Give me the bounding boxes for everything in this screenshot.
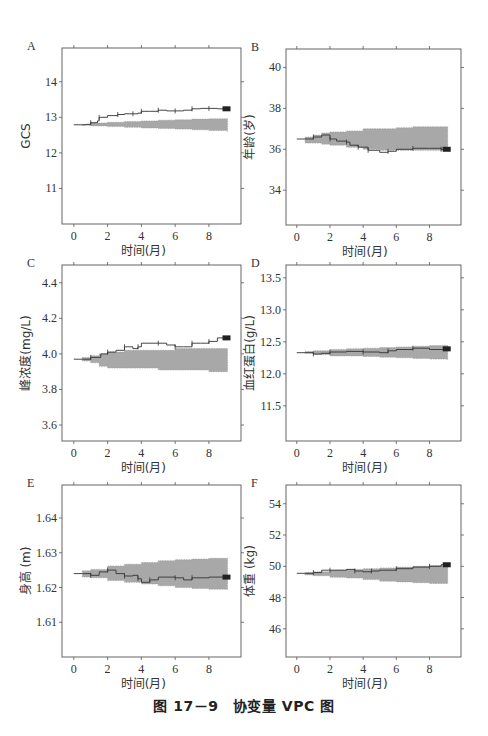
x-tick-label: 4 (360, 230, 366, 244)
y-axis-label: 峰浓度(mg/L) (18, 315, 33, 390)
x-tick-label: 0 (71, 446, 77, 460)
panel-letter: F (251, 476, 258, 490)
y-tick-label: 34 (269, 183, 281, 197)
x-tick-label: 0 (294, 662, 300, 676)
end-marker (222, 335, 230, 340)
x-tick-label: 4 (360, 662, 366, 676)
x-axis-label: 时间(月) (121, 461, 166, 475)
prediction-interval-band (82, 558, 227, 590)
y-tick-label: 48 (269, 591, 281, 605)
y-axis-label: 血红蛋白(g/L) (242, 315, 257, 391)
x-tick-label: 8 (426, 662, 432, 676)
y-tick-label: 46 (269, 622, 281, 636)
x-tick-label: 0 (294, 446, 300, 460)
chart-panel-a: 0246811121314时间(月)GCSA (19, 39, 244, 258)
end-marker (443, 562, 451, 567)
y-tick-label: 1.62 (36, 581, 57, 595)
y-tick-label: 13.5 (260, 271, 281, 285)
x-axis-label: 时间(月) (121, 244, 166, 258)
x-tick-label: 6 (393, 446, 399, 460)
x-tick-label: 2 (105, 662, 111, 676)
x-tick-label: 6 (393, 662, 399, 676)
x-tick-label: 8 (426, 446, 432, 460)
y-tick-label: 1.64 (36, 511, 57, 525)
y-tick-label: 1.61 (36, 615, 57, 629)
x-tick-label: 0 (294, 230, 300, 244)
plot-frame (62, 48, 241, 224)
y-tick-label: 38 (269, 101, 281, 115)
x-tick-label: 2 (327, 662, 333, 676)
vpc-figure: 0246811121314时间(月)GCSA0246834363840时间(月)… (0, 0, 488, 736)
figure-caption: 图 17－9 协变量 VPC 图 (0, 695, 488, 715)
x-tick-label: 6 (393, 230, 399, 244)
y-tick-label: 13.0 (260, 303, 281, 317)
y-tick-label: 36 (269, 142, 281, 156)
y-axis-label: 体重 (kg) (243, 545, 257, 597)
y-tick-label: 1.63 (36, 546, 57, 560)
y-tick-label: 13 (45, 110, 57, 124)
x-axis-label: 时间(月) (342, 677, 387, 691)
x-tick-label: 2 (327, 230, 333, 244)
chart-panel-e: 024681.611.621.631.64时间(月)身高 (m)E (18, 476, 244, 691)
panel-letter: D (251, 256, 260, 270)
x-tick-label: 6 (172, 662, 178, 676)
y-tick-label: 4.4 (42, 276, 57, 290)
y-tick-label: 12.0 (260, 367, 281, 381)
y-tick-label: 3.8 (42, 382, 57, 396)
x-tick-label: 8 (206, 446, 212, 460)
x-tick-label: 4 (138, 446, 144, 460)
y-tick-label: 52 (269, 528, 281, 542)
x-tick-label: 8 (426, 230, 432, 244)
chart-panel-c: 024683.63.84.04.24.4时间(月)峰浓度(mg/L)C (18, 256, 244, 475)
y-axis-label: GCS (19, 123, 33, 148)
x-axis-label: 时间(月) (342, 245, 387, 259)
panel-letter: E (27, 476, 34, 490)
chart-panel-d: 0246811.512.012.513.013.5时间(月)血红蛋白(g/L)D (242, 256, 464, 475)
y-tick-label: 11 (45, 181, 57, 195)
y-tick-label: 3.6 (42, 418, 57, 432)
end-marker (443, 147, 451, 152)
y-tick-label: 14 (45, 75, 57, 89)
x-axis-label: 时间(月) (121, 677, 166, 691)
x-tick-label: 2 (105, 446, 111, 460)
y-axis-label: 身高 (m) (18, 547, 33, 596)
prediction-interval-band (305, 127, 448, 151)
x-tick-label: 4 (138, 662, 144, 676)
x-tick-label: 8 (206, 662, 212, 676)
x-tick-label: 6 (172, 446, 178, 460)
x-tick-label: 2 (327, 446, 333, 460)
y-tick-label: 50 (269, 559, 281, 573)
x-tick-label: 4 (138, 229, 144, 243)
panel-letter: B (251, 40, 259, 54)
y-tick-label: 40 (269, 60, 281, 74)
y-axis-label: 年龄(岁) (242, 114, 257, 159)
x-tick-label: 0 (71, 662, 77, 676)
y-tick-label: 12.5 (260, 335, 281, 349)
panel-letter: C (27, 256, 35, 270)
y-tick-label: 4.0 (42, 347, 57, 361)
x-tick-label: 0 (71, 229, 77, 243)
prediction-interval-band (82, 119, 227, 132)
chart-panel-b: 0246834363840时间(月)年龄(岁)B (242, 40, 464, 259)
x-tick-label: 8 (206, 229, 212, 243)
x-axis-label: 时间(月) (342, 461, 387, 475)
end-marker (443, 346, 451, 351)
y-tick-label: 54 (269, 497, 281, 511)
chart-panel-f: 024684648505254时间(月)体重 (kg)F (243, 476, 464, 691)
x-tick-label: 4 (360, 446, 366, 460)
x-tick-label: 2 (105, 229, 111, 243)
prediction-interval-band (82, 349, 227, 372)
y-tick-label: 4.2 (42, 311, 57, 325)
y-tick-label: 11.5 (260, 399, 281, 413)
panel-letter: A (27, 39, 36, 53)
y-tick-label: 12 (45, 146, 57, 160)
end-marker (222, 575, 230, 580)
end-marker (222, 106, 230, 111)
x-tick-label: 6 (172, 229, 178, 243)
